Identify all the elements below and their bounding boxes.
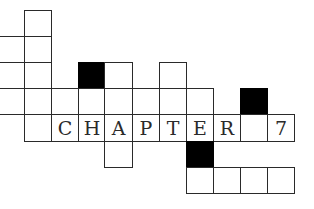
- black-square: [240, 88, 268, 116]
- grid-cell[interactable]: [240, 114, 268, 142]
- black-square: [186, 141, 214, 168]
- grid-cell-letter-p[interactable]: P: [132, 114, 160, 142]
- grid-cell[interactable]: [213, 167, 241, 194]
- grid-cell-letter-h[interactable]: H: [78, 114, 106, 142]
- black-square: [78, 62, 106, 90]
- grid-stub-line: [0, 36, 25, 37]
- grid-cell[interactable]: [78, 88, 106, 116]
- grid-cell[interactable]: [24, 10, 52, 38]
- grid-cell-number-7[interactable]: 7: [267, 114, 295, 142]
- grid-cell[interactable]: [24, 88, 52, 116]
- grid-cell[interactable]: [240, 167, 268, 194]
- grid-cell-letter-t[interactable]: T: [159, 114, 187, 142]
- grid-cell[interactable]: [267, 167, 295, 194]
- grid-stub-line: [0, 62, 25, 63]
- grid-cell[interactable]: [186, 167, 214, 194]
- grid-cell[interactable]: [186, 88, 214, 116]
- grid-stub-line: [0, 88, 25, 89]
- grid-cell-letter-r[interactable]: R: [213, 114, 241, 142]
- grid-cell[interactable]: [51, 88, 79, 116]
- grid-cell[interactable]: [159, 62, 187, 90]
- grid-cell[interactable]: [24, 36, 52, 64]
- grid-cell-letter-c[interactable]: C: [51, 114, 79, 142]
- grid-cell[interactable]: [24, 114, 52, 142]
- grid-cell[interactable]: [104, 88, 133, 116]
- grid-cell[interactable]: [132, 88, 160, 116]
- grid-cell[interactable]: [159, 88, 187, 116]
- crossword-grid: C H A P T E R 7: [0, 0, 314, 209]
- grid-cell-letter-e[interactable]: E: [186, 114, 214, 142]
- grid-stub-line: [0, 114, 25, 115]
- grid-cell-letter-a[interactable]: A: [104, 114, 133, 142]
- grid-cell[interactable]: [104, 141, 133, 168]
- grid-cell[interactable]: [104, 62, 133, 90]
- grid-cell[interactable]: [24, 62, 52, 90]
